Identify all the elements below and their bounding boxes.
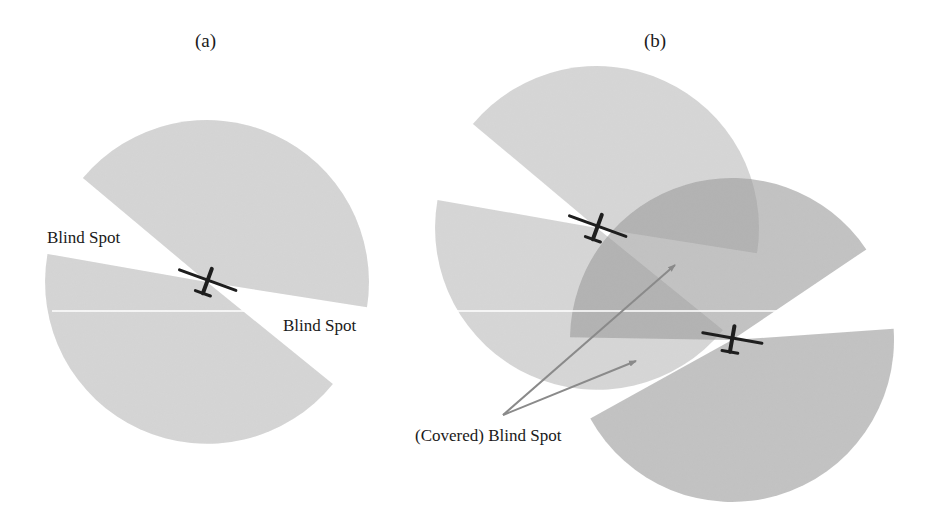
panel-b-title: (b)	[644, 30, 666, 52]
blind-spot-label-right: Blind Spot	[283, 316, 356, 336]
panel-a-title: (a)	[195, 30, 216, 52]
blind-spot-label-left: Blind Spot	[47, 228, 120, 248]
covered-blind-spot-label: (Covered) Blind Spot	[415, 426, 561, 446]
